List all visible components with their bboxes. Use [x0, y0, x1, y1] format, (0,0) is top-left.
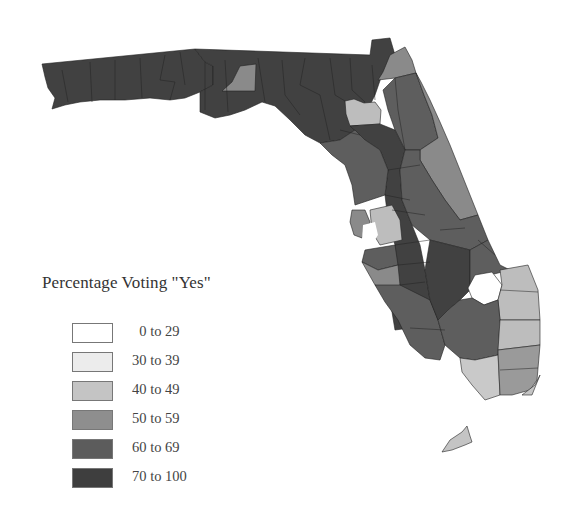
legend-swatch: [72, 381, 113, 401]
county-monroe-key-west: [442, 426, 472, 452]
tampa-bay-water: [362, 222, 378, 250]
florida-county-map: [0, 0, 566, 515]
legend-label: 70 to 100: [132, 468, 187, 485]
county-collier: [460, 355, 500, 400]
legend-title: Percentage Voting "Yes": [42, 273, 211, 293]
legend-label: 50 to 59: [132, 410, 180, 427]
legend-swatch: [72, 439, 113, 459]
legend-swatch: [72, 410, 113, 430]
legend-swatch: [72, 352, 113, 372]
legend-label: 40 to 49: [132, 381, 180, 398]
legend-swatch: [72, 323, 113, 343]
county-palm-beach: [498, 265, 540, 320]
legend-label: 30 to 39: [132, 352, 180, 369]
legend-label: 60 to 69: [132, 439, 180, 456]
counties: [42, 38, 540, 452]
legend-swatch: [72, 468, 113, 488]
county-alachua: [345, 99, 381, 126]
legend-label: 0 to 29: [132, 323, 180, 340]
